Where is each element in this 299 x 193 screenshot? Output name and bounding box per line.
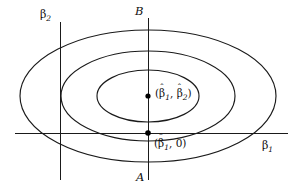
label-comma: , xyxy=(170,87,177,99)
paren-close: ) xyxy=(188,87,192,99)
line-ab-bottom-label: A xyxy=(136,172,144,184)
beta1-axis-label-subscript: 1 xyxy=(268,145,273,154)
beta2-axis-label-subscript: 2 xyxy=(46,14,51,23)
restricted-estimate-label: (ˆβ1, 0) xyxy=(154,138,186,152)
unconstrained-estimate-dot xyxy=(145,93,150,98)
restricted-estimate-dot xyxy=(145,130,151,136)
beta1-hat-glyph: ˆβ xyxy=(159,88,165,99)
figure-canvas: β2 β1 B A (ˆβ1, ˆβ2) (ˆβ1, 0) xyxy=(0,0,299,193)
beta2-axis-label: β2 xyxy=(40,9,51,23)
label-comma: , xyxy=(169,137,176,149)
beta1-axis-label: β1 xyxy=(262,140,273,154)
hat-accent-icon: ˆ xyxy=(160,83,165,93)
beta2-hat-glyph: ˆβ xyxy=(177,88,183,99)
hat-accent-icon: ˆ xyxy=(159,133,164,143)
hat-accent-icon: ˆ xyxy=(177,83,182,93)
diagram-svg xyxy=(0,0,299,193)
paren-close: ) xyxy=(182,137,186,149)
beta1-hat-glyph: ˆβ xyxy=(158,138,164,149)
line-ab-top-label: B xyxy=(135,6,143,18)
unconstrained-estimate-label: (ˆβ1, ˆβ2) xyxy=(155,88,192,102)
